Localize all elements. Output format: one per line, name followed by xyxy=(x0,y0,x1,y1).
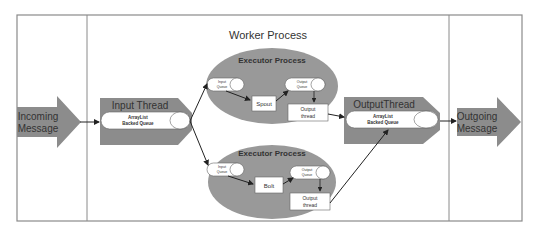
svg-text:Queue: Queue xyxy=(217,170,228,174)
svg-text:Queue: Queue xyxy=(302,173,313,177)
svg-text:Output: Output xyxy=(302,168,313,172)
worker-process-title: Worker Process xyxy=(229,29,308,41)
incoming-message-arrow: Incoming Message xyxy=(17,96,81,148)
worker-process-diagram: Worker Process Incoming Message Input Th… xyxy=(0,0,536,231)
svg-text:ArrayList: ArrayList xyxy=(373,114,393,119)
svg-text:Output: Output xyxy=(302,195,318,201)
outgoing-message-arrow: Outgoing Message xyxy=(457,97,521,147)
executor-process-bolt: Executor Process Input Queue Bolt Output… xyxy=(207,145,336,219)
svg-text:Backed Queue: Backed Queue xyxy=(367,120,399,125)
executor-process-spout: Executor Process Input Queue Spout Outpu… xyxy=(206,48,338,124)
svg-text:Spout: Spout xyxy=(256,101,272,107)
svg-text:Incoming: Incoming xyxy=(18,111,59,122)
svg-text:Input: Input xyxy=(218,165,226,169)
svg-text:Input Thread: Input Thread xyxy=(112,100,169,111)
svg-text:ArrayList: ArrayList xyxy=(128,115,148,120)
svg-text:Executor Process: Executor Process xyxy=(238,149,306,158)
svg-text:Bolt: Bolt xyxy=(264,183,275,189)
svg-text:Queue: Queue xyxy=(217,85,228,89)
svg-text:Backed Queue: Backed Queue xyxy=(122,121,154,126)
input-thread: Input Thread ArrayList Backed Queue xyxy=(100,98,192,145)
svg-text:Input: Input xyxy=(218,80,226,84)
svg-text:Message: Message xyxy=(457,123,498,134)
svg-text:Message: Message xyxy=(18,123,59,134)
svg-text:Outgoing: Outgoing xyxy=(457,111,498,122)
svg-text:thread: thread xyxy=(303,202,317,208)
svg-text:Executor Process: Executor Process xyxy=(238,56,306,65)
svg-text:Output: Output xyxy=(297,80,308,84)
output-thread: OutputThread ArrayList Backed Queue xyxy=(344,97,440,144)
svg-text:Queue: Queue xyxy=(297,85,308,89)
svg-text:thread: thread xyxy=(301,113,315,119)
svg-text:Output: Output xyxy=(300,106,316,112)
svg-text:OutputThread: OutputThread xyxy=(353,99,415,110)
